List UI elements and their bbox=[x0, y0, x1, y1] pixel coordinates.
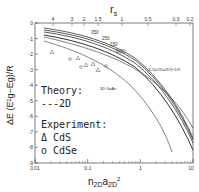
x-axis-label: n2Da2D2 bbox=[88, 176, 121, 188]
label-tc: Tc(K) bbox=[115, 49, 126, 54]
y-axis-label: ΔE (E¹g−Eg)/R bbox=[5, 65, 15, 125]
legend-cds: Δ CdS bbox=[41, 132, 71, 143]
svg-text:0: 0 bbox=[30, 20, 33, 26]
svg-text:0.01: 0.01 bbox=[30, 165, 40, 171]
x-axis: 0.01 0.1 1 10 bbox=[30, 159, 194, 171]
svg-text:2: 2 bbox=[83, 16, 86, 22]
label-150: 150 bbox=[110, 42, 118, 47]
label-350: 350 bbox=[91, 30, 99, 35]
y-axis: 0 -1 -2 -3 -4 -5 -6 -7 -8 -9 bbox=[29, 20, 38, 166]
chart: 0 -1 -2 -3 -4 -5 -6 -7 -8 -9 0.01 0.1 1 … bbox=[0, 0, 199, 192]
label-gaas: 3D GaAs bbox=[100, 86, 116, 91]
svg-text:0.2: 0.2 bbox=[187, 16, 194, 22]
svg-text:10: 10 bbox=[188, 165, 194, 171]
svg-text:0.3: 0.3 bbox=[173, 16, 180, 22]
svg-text:-8: -8 bbox=[29, 144, 34, 150]
svg-text:4: 4 bbox=[52, 16, 55, 22]
top-axis-label: rs bbox=[110, 3, 118, 17]
svg-text:-7: -7 bbox=[29, 129, 34, 135]
top-axis: 4 3 2 1.5 1 0.5 0.3 0.2 bbox=[52, 16, 194, 26]
svg-text:-5: -5 bbox=[29, 98, 34, 104]
svg-text:-2: -2 bbox=[29, 51, 34, 57]
svg-text:1.5: 1.5 bbox=[95, 16, 102, 22]
svg-text:-4: -4 bbox=[29, 82, 34, 88]
cdse-points bbox=[69, 58, 108, 69]
legend-theory-2d: ---2D bbox=[41, 98, 71, 109]
svg-text:3: 3 bbox=[71, 16, 74, 22]
svg-text:-1: -1 bbox=[29, 36, 34, 42]
svg-text:0.1: 0.1 bbox=[84, 165, 91, 171]
svg-text:0.5: 0.5 bbox=[145, 16, 152, 22]
legend-cdse: o CdSe bbox=[41, 145, 77, 156]
svg-text:-3: -3 bbox=[29, 67, 34, 73]
legend-experiment: Experiment: bbox=[41, 119, 107, 130]
legend: Theory: ---2D Experiment: Δ CdS o CdSe bbox=[41, 85, 107, 156]
svg-text:1: 1 bbox=[139, 165, 142, 171]
svg-text:1: 1 bbox=[121, 16, 124, 22]
label-formula: -3.1(n2Da2D²)^1/3 bbox=[147, 67, 181, 72]
svg-text:-6: -6 bbox=[29, 113, 34, 119]
label-250: 250 bbox=[102, 36, 110, 41]
cds-points bbox=[50, 50, 100, 72]
legend-theory: Theory: bbox=[41, 85, 83, 96]
